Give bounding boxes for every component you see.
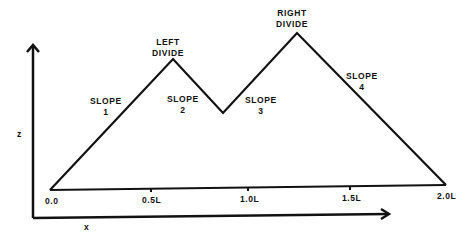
right-divide-line2: DIVIDE [276, 19, 308, 30]
slope-3-title: SLOPE [245, 95, 277, 106]
left-divide-line1: LEFT [152, 37, 184, 48]
slope-4-title: SLOPE [346, 71, 378, 82]
slope-2-number: 2 [167, 105, 199, 116]
slope-1-number: 1 [90, 107, 122, 118]
slope-4-number: 4 [346, 82, 378, 93]
tick-label-0.5L: 0.5L [142, 195, 161, 206]
slope-3-number: 3 [245, 106, 277, 117]
slope-4-label: SLOPE 4 [346, 71, 378, 93]
left-divide-label: LEFT DIVIDE [152, 37, 184, 59]
slope-1-label: SLOPE 1 [90, 96, 122, 118]
right-divide-label: RIGHT DIVIDE [276, 8, 308, 30]
right-divide-line1: RIGHT [276, 8, 308, 19]
slope-2-label: SLOPE 2 [167, 94, 199, 116]
x-axis [33, 214, 388, 218]
z-axis-label: z [17, 129, 22, 140]
tick-label-1.0L: 1.0L [240, 194, 259, 205]
slope-2-title: SLOPE [167, 94, 199, 105]
x-axis-label: x [84, 222, 89, 233]
tick-label-2.0L: 2.0L [437, 191, 456, 202]
tick-label-1.5L: 1.5L [342, 193, 361, 204]
left-divide-line2: DIVIDE [152, 48, 184, 59]
watershed-profile-diagram [0, 0, 474, 239]
tick-label-0: 0.0 [45, 196, 59, 207]
slope-3-label: SLOPE 3 [245, 95, 277, 117]
slope-1-title: SLOPE [90, 96, 122, 107]
